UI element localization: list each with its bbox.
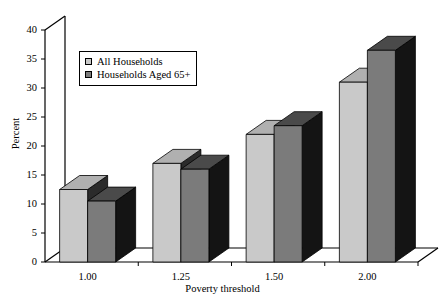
bar-front-face [246,134,274,262]
y-tick-label: 5 [3,228,37,239]
legend-item-label: All Households [97,56,163,67]
bar-3d [88,187,136,262]
y-axis-top-connector [45,16,65,30]
x-tick-label: 1.50 [244,272,304,283]
chart-legend: All Households Households Aged 65+ [79,51,197,86]
floor-right-edge [418,248,438,262]
y-tick-label: 0 [3,257,37,268]
chart-canvas [0,0,445,305]
y-tick-label: 15 [3,170,37,181]
legend-item-label: Households Aged 65+ [97,69,190,80]
bar-front-face [153,163,181,262]
y-tick-label: 40 [3,25,37,36]
bar-side-face [209,155,229,262]
y-axis-title: Percent [10,104,21,164]
bar-side-face [302,112,322,262]
x-tick-label: 1.25 [151,272,211,283]
bar-chart: 0510152025303540 1.001.251.502.00 Percen… [0,0,445,305]
y-tick-label: 35 [3,54,37,65]
bar-front-face [88,201,116,262]
bar-front-face [367,50,395,262]
legend-swatch-icon [85,71,92,78]
y-tick-label: 30 [3,83,37,94]
bar-front-face [60,190,88,263]
x-tick-label: 1.00 [58,272,118,283]
bar-side-face [395,36,415,262]
bar-3d [367,36,415,262]
bar-front-face [274,126,302,262]
bar-front-face [339,82,367,262]
x-axis-title: Poverty threshold [0,283,445,294]
legend-swatch-icon [85,58,92,65]
bar-3d [181,155,229,262]
legend-item: All Households [85,55,190,68]
bar-3d [274,112,322,262]
legend-item: Households Aged 65+ [85,68,190,81]
y-tick-label: 10 [3,199,37,210]
bar-front-face [181,169,209,262]
x-tick-label: 2.00 [337,272,397,283]
